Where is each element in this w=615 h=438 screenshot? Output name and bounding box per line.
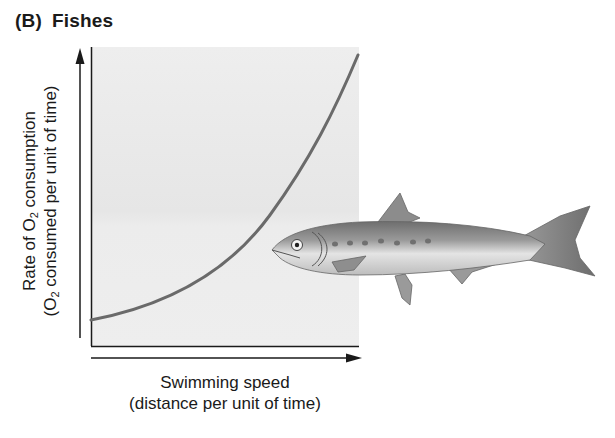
y-axis-label: Rate of O2 consumption (O2 consumed per … [19, 56, 61, 346]
x-axis-label-line2: (distance per unit of time) [90, 393, 360, 414]
y-axis-arrow [76, 48, 85, 338]
y-label-text: (O [41, 298, 60, 317]
x-axis-label-line1: Swimming speed [90, 372, 360, 393]
y-axis-label-line2: (O2 consumed per unit of time) [40, 56, 61, 346]
plot-area [91, 47, 359, 346]
x-axis-arrow [91, 354, 362, 363]
y-label-text: consumption [20, 111, 39, 212]
y-label-text: Rate of O [20, 218, 39, 291]
y-label-text: consumed per unit of time) [41, 86, 60, 292]
y-label-subscript: 2 [49, 291, 61, 297]
x-axis-label: Swimming speed (distance per unit of tim… [90, 372, 360, 414]
y-axis-label-line1: Rate of O2 consumption [19, 56, 40, 346]
y-label-subscript: 2 [28, 212, 40, 218]
